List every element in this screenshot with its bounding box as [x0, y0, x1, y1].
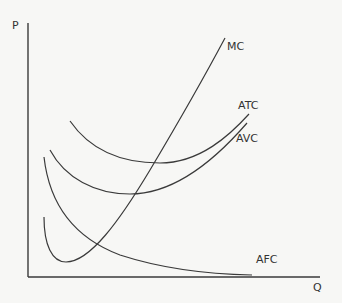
afc-label: AFC: [256, 254, 278, 265]
mc-label: MC: [227, 41, 244, 52]
y-axis-label: P: [12, 20, 19, 31]
x-axis-label: Q: [313, 282, 322, 293]
avc-label: AVC: [236, 133, 258, 144]
mc-curve: [44, 38, 225, 262]
afc-curve: [44, 157, 252, 275]
atc-label: ATC: [238, 100, 258, 111]
diagram-svg: [0, 0, 342, 303]
atc-curve: [70, 114, 249, 163]
cost-curves-diagram: P Q MC ATC AVC AFC: [0, 0, 342, 303]
